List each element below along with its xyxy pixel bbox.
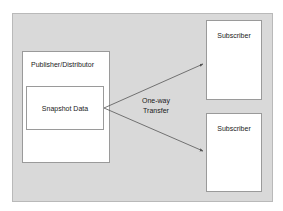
edge-label-one-way-transfer: One-way Transfer <box>128 96 184 115</box>
edge-label-line-2: Transfer <box>128 106 184 116</box>
diagram-canvas: Publisher/Distributor Snapshot Data Subs… <box>0 0 283 211</box>
node-subscriber-2[interactable]: Subscriber <box>206 113 262 192</box>
edge-label-line-1: One-way <box>128 96 184 106</box>
node-publisher-distributor-label: Publisher/Distributor <box>31 60 94 69</box>
node-subscriber-1[interactable]: Subscriber <box>206 20 262 100</box>
node-subscriber-2-label: Subscriber <box>207 124 261 133</box>
node-subscriber-1-label: Subscriber <box>207 31 261 40</box>
node-snapshot-data-label: Snapshot Data <box>27 104 103 113</box>
node-snapshot-data[interactable]: Snapshot Data <box>26 86 104 130</box>
